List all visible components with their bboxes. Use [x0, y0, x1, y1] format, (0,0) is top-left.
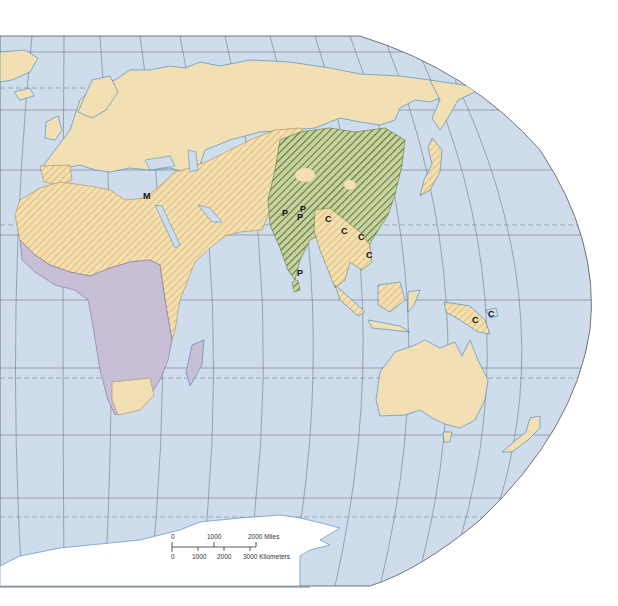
mongolia-patch — [344, 180, 356, 190]
tibet-patch — [295, 168, 315, 182]
scale-miles-0: 0 — [171, 533, 175, 540]
marker-c: C — [472, 315, 479, 325]
world-map: M P P P P C C C C C C 0 1000 2000 Miles … — [0, 0, 618, 606]
scale-km-3000: 3000 Kilometers — [243, 553, 291, 560]
marker-c: C — [358, 232, 365, 242]
marker-c: C — [341, 226, 348, 236]
scale-km-1000: 1000 — [192, 553, 207, 560]
marker-c: C — [488, 309, 495, 319]
marker-p: P — [297, 268, 303, 278]
marker-m: M — [143, 191, 151, 201]
scale-km-0: 0 — [171, 553, 175, 560]
marker-c: C — [366, 250, 373, 260]
marker-p: P — [297, 212, 303, 222]
marker-c: C — [325, 214, 332, 224]
scale-miles-2000: 2000 Miles — [248, 533, 280, 540]
scale-km-2000: 2000 — [217, 553, 232, 560]
scale-miles-1000: 1000 — [207, 533, 222, 540]
iberia — [40, 165, 72, 185]
marker-p: P — [282, 208, 288, 218]
